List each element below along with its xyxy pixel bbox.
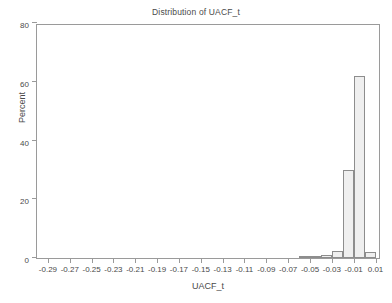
x-axis-tick: [376, 258, 377, 263]
x-axis-tick: [179, 258, 180, 263]
x-axis-tick-label: -0.27: [61, 265, 79, 274]
histogram-bar: [310, 256, 321, 258]
x-axis-tick: [223, 258, 224, 263]
x-axis-tick: [310, 258, 311, 263]
x-axis-tick: [157, 258, 158, 263]
x-axis-tick-label: -0.17: [170, 265, 188, 274]
x-axis-tick-label: -0.21: [126, 265, 144, 274]
histogram-bar: [343, 170, 354, 258]
x-axis-tick: [113, 258, 114, 263]
y-axis-title: Percent: [17, 92, 27, 123]
x-axis-title: UACF_t: [36, 281, 380, 291]
x-axis-tick-label: -0.13: [214, 265, 232, 274]
x-axis-tick-label: -0.11: [236, 265, 254, 274]
histogram-bar: [365, 252, 376, 258]
x-axis-tick: [92, 258, 93, 263]
y-axis-tick-label: 60: [20, 79, 29, 88]
histogram-bar: [321, 255, 332, 258]
x-axis-tick-label: -0.07: [279, 265, 297, 274]
x-axis-tick-label: 0.01: [368, 265, 384, 274]
x-axis-tick: [48, 258, 49, 263]
x-axis-tick: [70, 258, 71, 263]
histogram-chart: Distribution of UACF_t Percent 020406080…: [0, 0, 392, 303]
x-axis-tick-label: -0.05: [301, 265, 319, 274]
x-axis-tick-label: -0.19: [148, 265, 166, 274]
bar-series: [37, 25, 379, 258]
x-axis-tick: [266, 258, 267, 263]
x-axis-tick-label: -0.29: [39, 265, 57, 274]
x-axis-tick: [201, 258, 202, 263]
histogram-bar: [354, 76, 365, 258]
x-axis-tick: [354, 258, 355, 263]
x-axis-tick-label: -0.25: [82, 265, 100, 274]
histogram-bar: [299, 256, 310, 258]
x-axis-tick: [135, 258, 136, 263]
histogram-bar: [332, 251, 343, 258]
x-axis-tick-label: -0.01: [345, 265, 363, 274]
y-axis-tick-label: 40: [20, 138, 29, 147]
y-axis-tick-label: 20: [20, 197, 29, 206]
x-axis-tick-label: -0.03: [323, 265, 341, 274]
x-axis-tick-label: -0.15: [192, 265, 210, 274]
x-axis-tick: [244, 258, 245, 263]
x-axis-tick: [332, 258, 333, 263]
y-axis-tick: [32, 22, 37, 23]
x-axis-tick-label: -0.09: [257, 265, 275, 274]
plot-area: Percent 020406080 -0.29-0.27-0.25-0.23-0…: [36, 24, 380, 259]
x-axis-tick-label: -0.23: [104, 265, 122, 274]
chart-title: Distribution of UACF_t: [0, 7, 392, 17]
y-axis-tick-label: 0: [25, 256, 29, 265]
y-axis-tick-label: 80: [20, 21, 29, 30]
x-axis-tick: [288, 258, 289, 263]
